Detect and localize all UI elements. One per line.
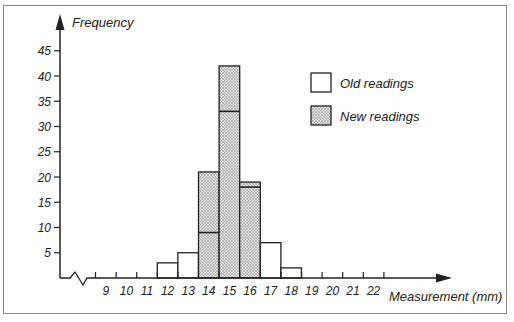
x-tick-label: 11 xyxy=(141,284,153,298)
y-tick-label: 20 xyxy=(37,171,52,185)
y-tick-label: 5 xyxy=(44,246,51,260)
bar-new-readings xyxy=(240,182,261,278)
x-tick-label: 9 xyxy=(102,284,109,298)
x-tick-label: 13 xyxy=(182,284,196,298)
x-tick-label: 12 xyxy=(161,284,175,298)
bar-new-readings xyxy=(199,172,220,278)
legend: Old readings New readings xyxy=(311,73,420,125)
y-tick-label: 35 xyxy=(38,95,52,109)
x-tick-label: 22 xyxy=(366,284,381,298)
x-axis-label: Measurement (mm) xyxy=(389,289,502,304)
histogram-chart: Frequency 51015202530354045 910111213141… xyxy=(0,0,514,322)
bar-old-readings xyxy=(178,253,199,278)
x-tick-label: 18 xyxy=(285,284,299,298)
legend-label-old: Old readings xyxy=(340,76,414,91)
y-axis-label: Frequency xyxy=(72,15,135,30)
bar-old-readings xyxy=(260,243,281,278)
x-tick-label: 16 xyxy=(243,284,257,298)
x-ticks-group: 910111213141516171819202122 xyxy=(96,272,384,298)
x-tick-label: 20 xyxy=(325,284,340,298)
x-tick-label: 15 xyxy=(223,284,237,298)
y-tick-label: 25 xyxy=(37,145,52,159)
y-tick-label: 45 xyxy=(38,44,52,58)
legend-swatch-old xyxy=(311,73,331,92)
y-tick-label: 15 xyxy=(38,196,52,210)
x-tick-label: 19 xyxy=(305,284,319,298)
bar-new-readings xyxy=(219,66,240,278)
legend-swatch-new xyxy=(311,106,331,125)
x-axis-arrow-icon xyxy=(436,274,452,283)
x-tick-label: 17 xyxy=(264,284,279,298)
bar-old-readings xyxy=(281,268,302,278)
x-axis-break xyxy=(60,272,95,285)
x-tick-label: 14 xyxy=(202,284,216,298)
bar-old-readings xyxy=(157,263,178,278)
y-tick-label: 30 xyxy=(38,120,52,134)
y-tick-label: 10 xyxy=(38,221,52,235)
bars-group xyxy=(157,66,301,278)
x-tick-label: 10 xyxy=(120,284,134,298)
y-axis-arrow-icon xyxy=(56,14,65,30)
y-ticks-group: 51015202530354045 xyxy=(37,44,60,260)
legend-label-new: New readings xyxy=(340,109,420,124)
x-tick-label: 21 xyxy=(345,284,359,298)
y-tick-label: 40 xyxy=(38,70,52,84)
